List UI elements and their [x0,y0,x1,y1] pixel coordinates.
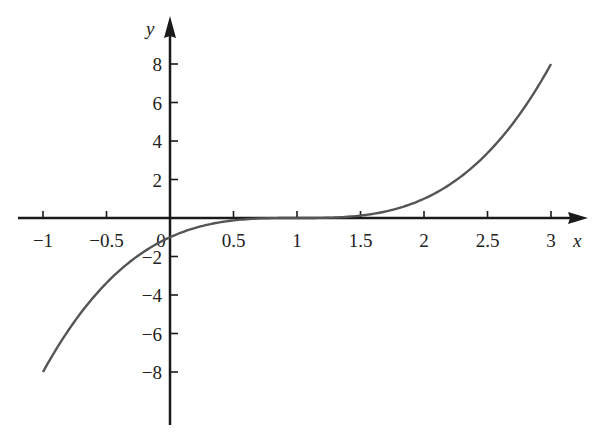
x-tick-label: 3 [546,230,556,251]
y-axis-label: y [144,18,155,39]
y-tick-label: 6 [153,93,163,114]
y-tick-label: −4 [142,285,163,306]
axes [18,16,588,425]
x-tick-label: 2.5 [476,230,500,251]
x-axis-arrow-icon [568,212,588,224]
x-tick-label: 0.5 [222,230,246,251]
x-tick-label: −1 [33,230,53,251]
y-tick-label: −2 [142,247,162,268]
y-tick-label: −8 [142,362,162,383]
cubic-function-chart: −1−0.500.511.522.53 −8−6−4−22468 x y [0,0,596,443]
x-axis-label: x [572,230,582,251]
y-tick-label: 2 [153,170,163,191]
x-tick-label: −0.5 [89,230,123,251]
x-tick-label: 2 [419,230,429,251]
y-tick-label: −6 [142,324,162,345]
y-axis-arrow-icon [164,16,176,38]
y-tick-label: 8 [153,54,163,75]
x-tick-label: 1 [292,230,302,251]
y-tick-label: 4 [153,131,163,152]
x-tick-label: 1.5 [349,230,373,251]
